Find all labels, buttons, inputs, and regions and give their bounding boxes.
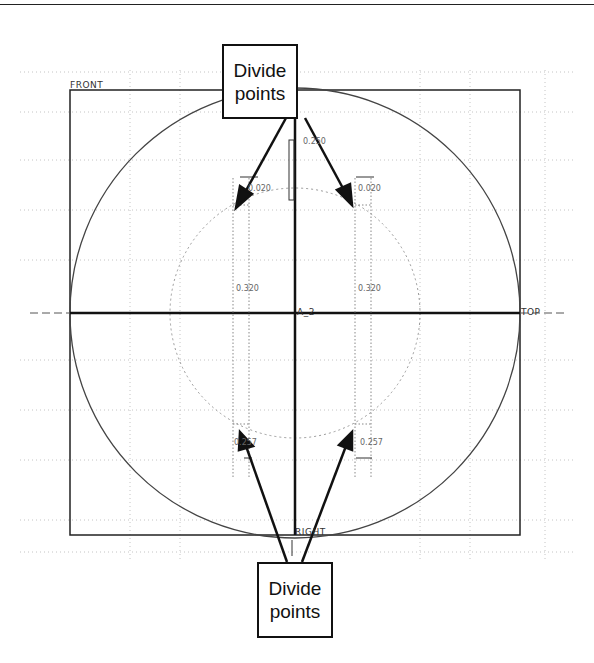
dim-lower-left: 0.257 — [234, 438, 257, 447]
callout-line-2: points — [235, 82, 286, 105]
datum-top-label: TOP — [521, 307, 541, 317]
dim-center-height: 0.250 — [303, 137, 326, 146]
callout-line-2: points — [270, 600, 321, 623]
datum-front-label: FRONT — [70, 80, 103, 90]
callout-line-1: Divide — [234, 59, 287, 82]
dim-mid-right: 0.320 — [358, 284, 381, 293]
callout-line-1: Divide — [269, 577, 322, 600]
dim-lower-right: 0.257 — [360, 438, 383, 447]
datum-right-label: RIGHT — [295, 527, 326, 537]
dim-upper-right: 0.020 — [358, 184, 381, 193]
axis-label: A_2 — [297, 307, 315, 317]
dim-upper-left: 0.020 — [248, 184, 271, 193]
dim-mid-left: 0.320 — [236, 284, 259, 293]
dim-bracket-center — [289, 140, 294, 200]
top-divide-points-callout: Divide points — [222, 44, 298, 119]
bottom-divide-points-callout: Divide points — [257, 562, 333, 638]
